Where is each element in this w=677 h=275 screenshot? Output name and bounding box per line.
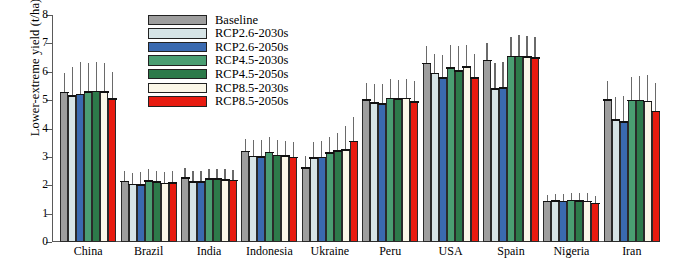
bar[interactable] bbox=[289, 157, 297, 242]
bar[interactable] bbox=[551, 201, 559, 242]
bar[interactable] bbox=[491, 89, 499, 242]
bar-cell[interactable] bbox=[326, 15, 334, 242]
bar[interactable] bbox=[423, 63, 431, 242]
bar-cell[interactable] bbox=[423, 15, 431, 242]
bar[interactable] bbox=[129, 184, 137, 242]
bar[interactable] bbox=[378, 104, 386, 242]
bar[interactable] bbox=[205, 179, 213, 242]
bar[interactable] bbox=[189, 182, 197, 242]
bar-cell[interactable] bbox=[334, 15, 342, 242]
bar[interactable] bbox=[604, 100, 612, 242]
bar[interactable] bbox=[394, 99, 402, 242]
bar[interactable] bbox=[241, 151, 249, 242]
bar-cell[interactable] bbox=[84, 15, 92, 242]
bar-cell[interactable] bbox=[68, 15, 76, 242]
bar[interactable] bbox=[302, 168, 310, 242]
bar-cell[interactable] bbox=[644, 15, 652, 242]
bar-cell[interactable] bbox=[370, 15, 378, 242]
bar-cell[interactable] bbox=[121, 15, 129, 242]
bar[interactable] bbox=[559, 201, 567, 242]
bar[interactable] bbox=[523, 57, 531, 242]
bar[interactable] bbox=[137, 185, 145, 242]
bar-cell[interactable] bbox=[410, 15, 418, 242]
bar[interactable] bbox=[213, 179, 221, 242]
legend-item[interactable]: Baseline bbox=[148, 13, 288, 27]
bar-cell[interactable] bbox=[342, 15, 350, 242]
bar[interactable] bbox=[153, 182, 161, 242]
bar-cell[interactable] bbox=[362, 15, 370, 242]
bar-cell[interactable] bbox=[652, 15, 660, 242]
bar-cell[interactable] bbox=[60, 15, 68, 242]
bar[interactable] bbox=[499, 88, 507, 242]
bar-cell[interactable] bbox=[583, 15, 591, 242]
bar-cell[interactable] bbox=[612, 15, 620, 242]
bar-cell[interactable] bbox=[483, 15, 491, 242]
bar[interactable] bbox=[121, 181, 129, 242]
bar[interactable] bbox=[84, 92, 92, 242]
legend-item[interactable]: RCP2.6-2050s bbox=[148, 40, 288, 54]
bar[interactable] bbox=[92, 91, 100, 242]
bar[interactable] bbox=[386, 98, 394, 242]
bar[interactable] bbox=[507, 56, 515, 242]
bar[interactable] bbox=[644, 101, 652, 242]
bar-cell[interactable] bbox=[302, 15, 310, 242]
bar[interactable] bbox=[145, 181, 153, 242]
bar-cell[interactable] bbox=[289, 15, 297, 242]
bar-cell[interactable] bbox=[100, 15, 108, 242]
bar[interactable] bbox=[257, 157, 265, 242]
bar[interactable] bbox=[612, 120, 620, 242]
bar[interactable] bbox=[100, 92, 108, 242]
bar[interactable] bbox=[273, 155, 281, 242]
bar-cell[interactable] bbox=[620, 15, 628, 242]
bar-cell[interactable] bbox=[515, 15, 523, 242]
bar-cell[interactable] bbox=[567, 15, 575, 242]
bar[interactable] bbox=[342, 150, 350, 243]
bar-cell[interactable] bbox=[531, 15, 539, 242]
bar[interactable] bbox=[575, 201, 583, 242]
bar-cell[interactable] bbox=[76, 15, 84, 242]
bar[interactable] bbox=[265, 152, 273, 242]
bar[interactable] bbox=[628, 100, 636, 242]
bar[interactable] bbox=[68, 96, 76, 242]
legend-item[interactable]: RCP2.6-2030s bbox=[148, 27, 288, 41]
bar[interactable] bbox=[410, 102, 418, 242]
bar[interactable] bbox=[281, 156, 289, 242]
bar[interactable] bbox=[197, 182, 205, 242]
bar[interactable] bbox=[161, 183, 169, 242]
bar[interactable] bbox=[636, 100, 644, 242]
bar[interactable] bbox=[318, 157, 326, 242]
bar[interactable] bbox=[515, 56, 523, 242]
bar-cell[interactable] bbox=[559, 15, 567, 242]
bar[interactable] bbox=[249, 156, 257, 242]
bar-cell[interactable] bbox=[350, 15, 358, 242]
bar-cell[interactable] bbox=[463, 15, 471, 242]
bar-cell[interactable] bbox=[628, 15, 636, 242]
bar[interactable] bbox=[455, 71, 463, 242]
bar-cell[interactable] bbox=[92, 15, 100, 242]
bar-cell[interactable] bbox=[636, 15, 644, 242]
bar-cell[interactable] bbox=[386, 15, 394, 242]
bar-cell[interactable] bbox=[455, 15, 463, 242]
bar[interactable] bbox=[531, 58, 539, 242]
bar-cell[interactable] bbox=[575, 15, 583, 242]
bar-cell[interactable] bbox=[439, 15, 447, 242]
bar[interactable] bbox=[350, 141, 358, 242]
bar-cell[interactable] bbox=[402, 15, 410, 242]
bar[interactable] bbox=[181, 178, 189, 242]
bar-cell[interactable] bbox=[431, 15, 439, 242]
legend-item[interactable]: RCP4.5-2030s bbox=[148, 54, 288, 68]
bar-cell[interactable] bbox=[310, 15, 318, 242]
bar-cell[interactable] bbox=[523, 15, 531, 242]
legend-item[interactable]: RCP4.5-2050s bbox=[148, 67, 288, 81]
bar[interactable] bbox=[221, 180, 229, 242]
bar-cell[interactable] bbox=[491, 15, 499, 242]
bar[interactable] bbox=[620, 122, 628, 242]
bar-cell[interactable] bbox=[378, 15, 386, 242]
bar-cell[interactable] bbox=[604, 15, 612, 242]
bar-cell[interactable] bbox=[447, 15, 455, 242]
legend-item[interactable]: RCP8.5-2050s bbox=[148, 95, 288, 109]
bar-cell[interactable] bbox=[543, 15, 551, 242]
bar[interactable] bbox=[652, 111, 660, 242]
bar[interactable] bbox=[439, 78, 447, 242]
bar-cell[interactable] bbox=[471, 15, 479, 242]
